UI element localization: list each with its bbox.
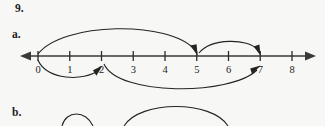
axis-right-arrow-icon bbox=[305, 52, 316, 61]
axis-left-arrow-icon bbox=[20, 52, 31, 61]
tick-label: 0 bbox=[35, 64, 40, 75]
tick-label: 5 bbox=[194, 64, 199, 75]
part-b-small-arc bbox=[62, 114, 93, 126]
number-line-diagram: 012345678 bbox=[0, 0, 325, 100]
part-b-large-arc bbox=[124, 107, 228, 127]
jump-arrow-head-icon bbox=[190, 44, 197, 55]
tick-label: 3 bbox=[131, 64, 136, 75]
jump-arc-path bbox=[104, 64, 257, 89]
jump-arc-path bbox=[38, 29, 195, 54]
tick-label: 4 bbox=[162, 64, 168, 75]
jump-arc-0-to-5 bbox=[38, 29, 198, 56]
jump-arc-2-to-7 bbox=[104, 64, 261, 89]
tick-label: 6 bbox=[226, 64, 231, 75]
tick-label: 1 bbox=[67, 64, 72, 75]
number-line-axis bbox=[20, 52, 316, 61]
jump-arc-5-to-7 bbox=[199, 41, 261, 55]
tick-label: 8 bbox=[289, 64, 294, 75]
worksheet-page: 9. a. 012345678 b. bbox=[0, 0, 325, 126]
part-b-partial-diagram bbox=[0, 100, 325, 126]
jump-arrow-head-icon bbox=[254, 45, 261, 56]
